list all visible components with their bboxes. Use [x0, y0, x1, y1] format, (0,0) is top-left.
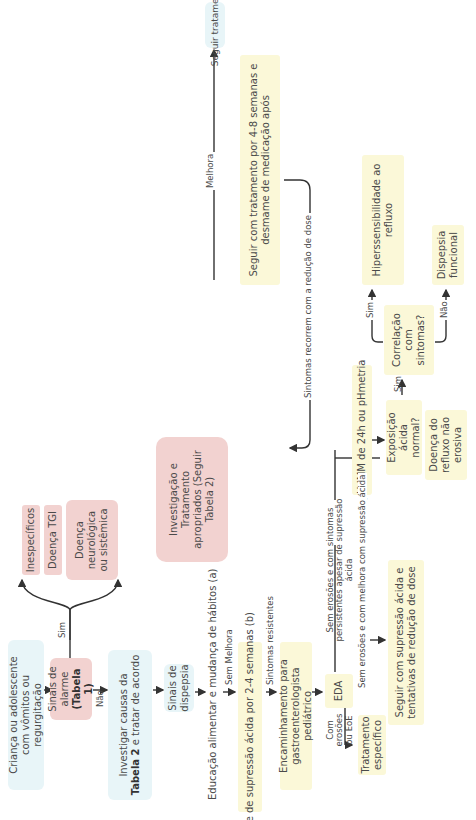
edge-label-improves-1: Melhora [206, 152, 215, 190]
gi-disease-node: Doença TGI [44, 505, 62, 575]
investigate-text: Investigar causas da Tabela 2 e tratar d… [118, 654, 142, 796]
edge-label-with-erosions: Com erosões ou EoE [326, 710, 354, 750]
investigate-node: Investigar causas da Tabela 2 e tratar d… [108, 650, 152, 800]
neuro-disease-node: Doença neurológica ou sistêmica [66, 500, 118, 580]
alarm-signs-ref: (Tabela 1) [71, 662, 95, 716]
dyspepsia-signs-node: Sinais de dispepsia [164, 664, 194, 712]
continue-treatment-node: Seguir com tratamento por 4-8 semanas e … [240, 55, 280, 285]
edge-label-yes-alarm: Sim [58, 622, 67, 638]
edge-label-corr-no: Não [440, 301, 449, 318]
edge-label-no-erosions-persistent: Sem erosões e com sintomas persistentes … [326, 495, 354, 645]
follow-treatment-node: Seguir tratamento [205, 2, 225, 48]
specific-treatment-node: Tratamento específico [358, 715, 386, 775]
alarm-signs-label: Sinais de alarme [47, 662, 71, 716]
reflux-hypersensitivity-node: Hiperssensibilidade ao refluxo [362, 155, 404, 285]
edge-label-no-improvement: Sem Melhora [225, 629, 234, 685]
nonspecific-node: Inespecíficos [22, 505, 40, 575]
edge-label-no-alarm: Não [96, 690, 105, 707]
edge-label-acid-yes: Sim [394, 376, 403, 392]
alarm-signs-node: Sinais de alarme (Tabela 1) [50, 658, 92, 720]
acid-suppression-trial-node: Teste de supressão ácida por 2-4 semanas… [238, 642, 262, 812]
edge-label-no-erosions-improved: Sem erosões e com melhora com supressão … [358, 473, 367, 690]
nerd-node: Doença do refluxo não erosiva [425, 410, 467, 480]
edge-label-corr-yes: Sim [366, 302, 375, 318]
diet-education-node: Educação alimentar e mudança de hábitos … [207, 569, 219, 800]
start-node: Criança ou adolescente com vômitos ou re… [8, 640, 44, 790]
appropriate-workup-node: Investigação e Tratamento apropriados (S… [156, 437, 228, 562]
continue-suppression-node: Seguir com supressão ácida e tentativas … [388, 560, 424, 725]
referral-node: Encaminhamento para gastroenterologista … [280, 642, 312, 790]
symptom-correlation-node: Correlação com sintomas? [384, 305, 434, 375]
edge-label-resistant: Sintomas resistentes [266, 596, 275, 685]
acid-exposure-node: Exposição ácida normal? [386, 400, 422, 475]
flowchart: Criança ou adolescente com vômitos ou re… [0, 0, 476, 820]
eda-node: EDA [325, 674, 353, 708]
functional-dyspepsia-node: Dispepsia funcional [432, 225, 464, 285]
edge-label-symptoms-recur: Sintomas recorrem com a redução de dose [304, 213, 313, 400]
